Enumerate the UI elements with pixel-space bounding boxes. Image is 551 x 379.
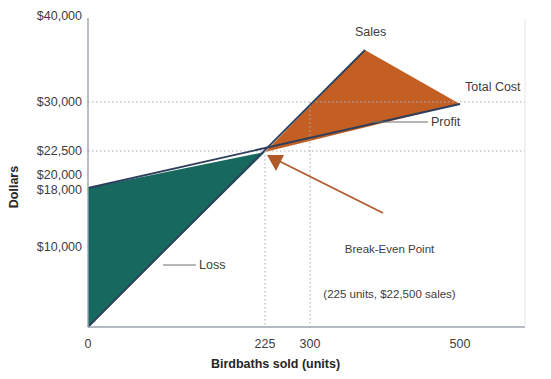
total-cost-label: Total Cost <box>465 80 521 94</box>
break-even-annotation-line1: Break-Even Point <box>277 242 502 257</box>
x-tick-225: 225 <box>240 337 290 351</box>
profit-label: Profit <box>431 115 460 129</box>
x-axis-title: Birdbaths sold (units) <box>0 357 551 371</box>
y-tick-40000: $40,000 <box>8 9 82 23</box>
break-even-chart: $40,000 $30,000 $22,500 $20,000 $18,000 … <box>0 0 551 379</box>
x-tick-300: 300 <box>285 337 335 351</box>
x-tick-0: 0 <box>63 337 113 351</box>
y-axis-title: Dollars <box>7 147 21 227</box>
break-even-annotation: Break-Even Point (225 units, $22,500 sal… <box>277 212 502 332</box>
loss-label: Loss <box>199 258 225 272</box>
x-tick-500: 500 <box>435 337 485 351</box>
break-even-annotation-line2: (225 units, $22,500 sales) <box>277 287 502 302</box>
y-tick-10000: $10,000 <box>8 240 82 254</box>
sales-label: Sales <box>355 25 386 39</box>
y-tick-30000: $30,000 <box>8 95 82 109</box>
